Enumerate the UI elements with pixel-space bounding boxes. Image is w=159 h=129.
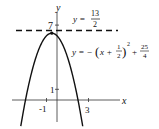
svg-text:2: 2 [117,52,121,60]
svg-text:x +: x + [99,47,112,57]
svg-text:2: 2 [93,20,97,29]
svg-text:): ) [122,44,126,59]
svg-text:(: ( [95,44,99,59]
x-tick-label-3: 3 [85,105,90,115]
svg-text:25: 25 [141,43,149,51]
svg-text:4: 4 [143,52,147,60]
parabola-label: y = − ( x + 1 2 ) 2 + 25 4 [71,41,149,60]
x-axis-label: x [121,95,127,106]
y-tick-label-1: 1 [50,85,55,95]
svg-text:1: 1 [117,43,121,51]
y-tick-label-7: 7 [48,20,53,31]
svg-text:y =: y = [72,14,85,24]
svg-text:2: 2 [127,41,130,47]
svg-text:+: + [132,47,137,57]
vertex-point [50,32,53,35]
horizontal-line-label: y = 13 2 [72,9,100,29]
y-axis-label: y [55,2,61,13]
svg-text:13: 13 [91,9,99,18]
x-tick-label-neg1: -1 [39,104,47,114]
svg-text:y = −: y = − [71,47,93,57]
graph: x y 7 1 -1 3 y = 13 2 y = − ( x + 1 2 ) … [0,0,159,129]
